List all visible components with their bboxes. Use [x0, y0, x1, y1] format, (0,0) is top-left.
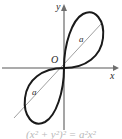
curve-lower-lobe	[25, 68, 64, 124]
y-axis-label: y	[56, 2, 60, 12]
radius-label-upper: a	[79, 35, 84, 44]
x-axis-label: x	[110, 71, 114, 81]
y-axis-arrow-icon	[61, 4, 67, 11]
radius-label-lower: a	[32, 88, 37, 97]
lemniscate-figure: y x O a a (x² + y²)² = a²x²	[0, 0, 122, 139]
equation-caption: (x² + y²)² = a²x²	[0, 129, 122, 139]
plot-canvas	[0, 0, 122, 139]
origin-label: O	[51, 55, 58, 65]
